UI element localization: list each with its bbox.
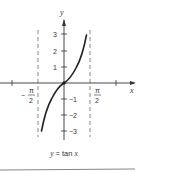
y-tick-label-2: 2 xyxy=(53,48,57,55)
x-tick-label-neg-half-pi-den: 2 xyxy=(29,97,33,104)
origin-dot xyxy=(62,81,66,85)
y-tick-label-1: 1 xyxy=(53,64,57,71)
y-tick-label-neg3: −3 xyxy=(69,128,77,135)
y-tick-label-3: 3 xyxy=(53,31,57,38)
caption-var-x: x xyxy=(75,149,78,158)
x-tick-label-neg-half-pi-num: π xyxy=(29,87,34,94)
y-tick-label-neg2: −2 xyxy=(69,112,77,119)
y-axis-label: y xyxy=(59,8,64,17)
tan-graph: y x 3 2 1 −1 −2 −3 − π 2 π 2 xyxy=(0,0,176,173)
caption-eq: = tan xyxy=(53,149,74,158)
x-tick-label-half-pi-den: 2 xyxy=(95,97,99,104)
y-tick-label-neg1: −1 xyxy=(69,96,77,103)
y-axis-arrow-icon xyxy=(62,19,66,26)
bottom-rule xyxy=(0,169,135,170)
x-tick-label-half-pi-num: π xyxy=(95,87,100,94)
x-axis-label: x xyxy=(129,86,134,95)
figure-caption: y = tan x xyxy=(0,149,128,158)
x-axis-arrow-icon xyxy=(130,81,136,85)
x-tick-label-neg-half-pi-sign: − xyxy=(21,92,25,99)
